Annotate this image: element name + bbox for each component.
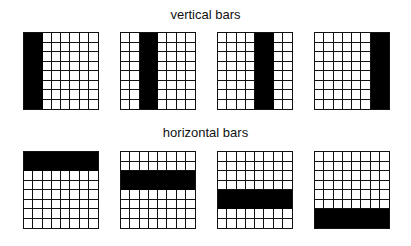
grid-cell (130, 152, 139, 162)
grid-cell (334, 162, 343, 172)
grid-cell (218, 152, 227, 162)
grid-cell (324, 190, 333, 200)
grid-cell (334, 90, 343, 100)
grid-cell (361, 81, 370, 91)
grid-cell (361, 152, 370, 162)
grid-cell (149, 171, 158, 181)
grid-cell (237, 71, 246, 81)
grid-cell (380, 209, 389, 219)
grid-cell (89, 171, 98, 181)
grid-cell (361, 71, 370, 81)
grid-cell (24, 171, 33, 181)
grid-cell (186, 33, 195, 43)
grid-cell (246, 33, 255, 43)
grid-cell (33, 33, 42, 43)
grid-cell (80, 190, 89, 200)
grid-cell (237, 90, 246, 100)
grid-cell (121, 62, 130, 72)
grid-cell (264, 81, 273, 91)
grid-cell (70, 100, 79, 110)
grid-cell (324, 171, 333, 181)
grid-cell (158, 52, 167, 62)
grid-cell (218, 162, 227, 172)
grid-cell (343, 171, 352, 181)
grid-cell (334, 152, 343, 162)
grid-cell (61, 209, 70, 219)
grid-cell (255, 52, 264, 62)
grid-cell (186, 181, 195, 191)
grid-cell (237, 62, 246, 72)
grid-cell (33, 100, 42, 110)
grid-cell (334, 200, 343, 210)
grid-cell (315, 190, 324, 200)
grid-cell (61, 62, 70, 72)
grid-cell (343, 200, 352, 210)
grid-cell (246, 52, 255, 62)
grid-cell (149, 62, 158, 72)
grid-cell (274, 90, 283, 100)
grid-cell (140, 33, 149, 43)
grid-cell (315, 171, 324, 181)
grid-cell (237, 209, 246, 219)
grid-cell (343, 33, 352, 43)
grid-cell (334, 43, 343, 53)
grid-cell (315, 71, 324, 81)
grid-cell (52, 171, 61, 181)
grid-cell (70, 162, 79, 172)
grid-cell (227, 100, 236, 110)
grid-cell (140, 90, 149, 100)
grid-cell (264, 162, 273, 172)
grid-cell (24, 52, 33, 62)
grid-cell (227, 219, 236, 229)
grid-cell (283, 219, 292, 229)
grid-cell (264, 52, 273, 62)
grid-cell (167, 62, 176, 72)
grid-cell (149, 209, 158, 219)
grid-cell (158, 171, 167, 181)
grid-cell (130, 52, 139, 62)
grid-cell (130, 43, 139, 53)
grid-cell (315, 152, 324, 162)
grid-cell (33, 52, 42, 62)
vertical-bar-grid-v4 (314, 32, 390, 110)
grid-cell (158, 33, 167, 43)
grid-cell (24, 162, 33, 172)
grid-cell (343, 152, 352, 162)
grid-cell (227, 152, 236, 162)
grid-cell (80, 152, 89, 162)
grid-cell (80, 33, 89, 43)
grid-cell (186, 209, 195, 219)
grid-cell (33, 62, 42, 72)
grid-cell (80, 219, 89, 229)
grid-cell (177, 209, 186, 219)
grid-cell (186, 81, 195, 91)
grid-cell (158, 152, 167, 162)
grid-cell (334, 190, 343, 200)
grid-cell (218, 62, 227, 72)
grid-cell (361, 52, 370, 62)
grid-cell (227, 52, 236, 62)
grid-cell (177, 33, 186, 43)
grid-cell (315, 52, 324, 62)
grid-cell (167, 81, 176, 91)
grid-cell (283, 162, 292, 172)
grid-cell (315, 33, 324, 43)
grid-cell (149, 100, 158, 110)
grid-cell (149, 200, 158, 210)
grid-cell (149, 90, 158, 100)
grid-cell (315, 200, 324, 210)
grid-cell (361, 90, 370, 100)
grid-cell (380, 162, 389, 172)
grid-cell (255, 81, 264, 91)
grid-cell (352, 190, 361, 200)
grid-cell (324, 209, 333, 219)
grid-cell (380, 219, 389, 229)
grid-cell (380, 200, 389, 210)
grid-cell (227, 181, 236, 191)
grid-cell (237, 52, 246, 62)
grid-cell (352, 219, 361, 229)
grid-cell (80, 100, 89, 110)
grid-cell (177, 171, 186, 181)
grid-cell (283, 200, 292, 210)
grid-cell (352, 152, 361, 162)
